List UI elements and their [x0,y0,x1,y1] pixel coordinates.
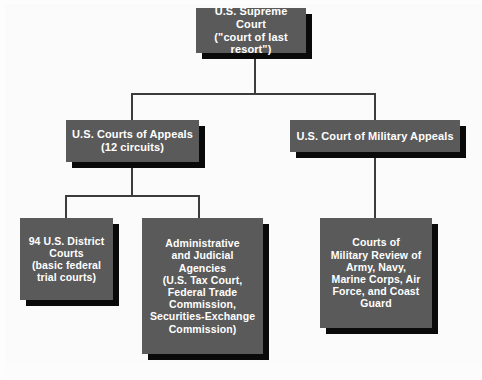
node-military-appeals: U.S. Court of Military Appeals [290,120,460,152]
connector-military-appeals-to-review [374,152,376,219]
connector-level2-bus [131,93,376,95]
connector-bus-to-district-courts [65,195,67,219]
node-district-courts: 94 U.S. District Courts (basic federal t… [20,218,113,300]
connector-level3-bus [65,195,200,197]
node-admin-agencies: Administrative and Judicial Agencies (U.… [142,218,263,354]
connector-bus-to-courts-of-appeals [131,93,133,121]
node-supreme-court-label: U.S. Supreme Court ("court of last resor… [201,5,301,56]
node-supreme-court: U.S. Supreme Court ("court of last resor… [196,8,306,53]
connector-bus-to-military-appeals [374,93,376,121]
node-courts-of-appeals: U.S. Courts of Appeals (12 circuits) [66,120,199,162]
paper-texture-left [0,0,5,380]
connector-supreme-to-bus [254,59,256,94]
node-military-review-label: Courts of Military Review of Army, Navy,… [331,236,422,309]
connector-courts-of-appeals-to-bus [131,162,133,197]
org-chart-canvas: U.S. Supreme Court ("court of last resor… [0,0,482,380]
node-district-courts-label: 94 U.S. District Courts (basic federal t… [29,235,105,284]
connector-bus-to-admin-agencies [198,195,200,219]
node-courts-of-appeals-label: U.S. Courts of Appeals (12 circuits) [72,128,193,154]
paper-texture-bottom [0,365,482,380]
node-military-review: Courts of Military Review of Army, Navy,… [320,218,432,328]
node-admin-agencies-label: Administrative and Judicial Agencies (U.… [150,237,255,334]
paper-texture-top [0,0,482,4]
node-military-appeals-label: U.S. Court of Military Appeals [296,130,453,143]
